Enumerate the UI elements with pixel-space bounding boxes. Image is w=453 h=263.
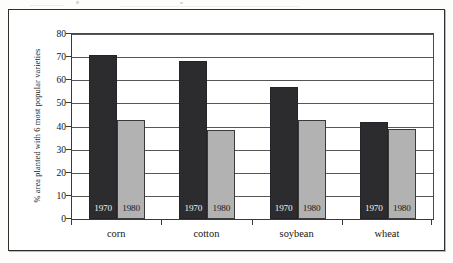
bar[interactable]: 1980 bbox=[298, 120, 326, 219]
plot-area: 19701980197019801970198019701980 bbox=[71, 33, 434, 220]
bar[interactable]: 1980 bbox=[388, 129, 416, 219]
y-tick-label: 40 bbox=[40, 120, 66, 131]
bar-year-label: 1970 bbox=[90, 203, 116, 213]
bar-group: 19701980 bbox=[72, 34, 162, 219]
x-tick-mark bbox=[342, 220, 343, 225]
bar[interactable]: 1970 bbox=[270, 87, 298, 219]
bar-group: 19701980 bbox=[253, 34, 343, 219]
bar-group: 19701980 bbox=[162, 34, 252, 219]
y-tick-label: 80 bbox=[40, 28, 66, 39]
y-tick-label: 50 bbox=[40, 97, 66, 108]
y-axis-ticks: 01020304050607080 bbox=[36, 33, 66, 220]
bar-year-label: 1980 bbox=[299, 203, 325, 213]
bar-group: 19701980 bbox=[343, 34, 433, 219]
bar-year-label: 1980 bbox=[389, 203, 415, 213]
bar-chart: % area planted with 6 most popular varie… bbox=[8, 9, 445, 251]
y-tick-label: 0 bbox=[40, 213, 66, 224]
x-axis-labels: corncottonsoybeanwheat bbox=[71, 228, 434, 246]
x-tick-mark bbox=[252, 220, 253, 225]
x-tick-label: cotton bbox=[193, 228, 219, 239]
x-tick-mark bbox=[431, 220, 432, 225]
bar[interactable]: 1970 bbox=[89, 55, 117, 219]
bar[interactable]: 1970 bbox=[179, 61, 207, 219]
x-axis-ticks bbox=[71, 220, 434, 226]
y-tick-label: 10 bbox=[40, 189, 66, 200]
bar[interactable]: 1980 bbox=[207, 130, 235, 219]
y-tick-label: 70 bbox=[40, 51, 66, 62]
x-tick-label: soybean bbox=[280, 228, 314, 239]
y-tick-label: 20 bbox=[40, 166, 66, 177]
bar-year-label: 1980 bbox=[118, 203, 144, 213]
bar[interactable]: 1970 bbox=[360, 122, 388, 219]
scan-artifact-strip bbox=[0, 0, 453, 8]
bar-year-label: 1970 bbox=[361, 203, 387, 213]
y-tick-label: 60 bbox=[40, 74, 66, 85]
y-tick-label: 30 bbox=[40, 143, 66, 154]
x-tick-label: wheat bbox=[374, 228, 399, 239]
bar[interactable]: 1980 bbox=[117, 120, 145, 219]
bar-year-label: 1970 bbox=[271, 203, 297, 213]
bar-year-label: 1970 bbox=[180, 203, 206, 213]
bar-year-label: 1980 bbox=[208, 203, 234, 213]
x-tick-mark bbox=[161, 220, 162, 225]
x-tick-mark bbox=[71, 220, 72, 225]
x-tick-label: corn bbox=[107, 228, 125, 239]
